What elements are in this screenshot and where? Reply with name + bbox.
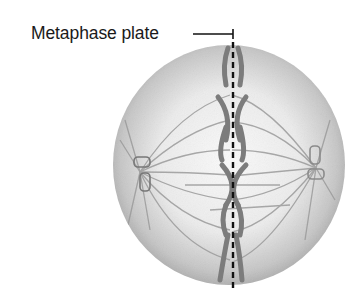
metaphase-cell-diagram [0, 0, 362, 302]
label-pointer [193, 29, 233, 39]
